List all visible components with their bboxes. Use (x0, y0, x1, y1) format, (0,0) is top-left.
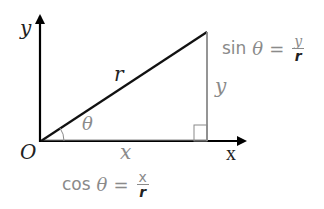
vertical-leg-label: y (215, 74, 226, 98)
angle-arc-icon (60, 128, 64, 141)
origin-label: O (20, 140, 36, 164)
cos-formula: cos θ = x r (62, 166, 149, 202)
horizontal-leg-label: x (120, 140, 131, 164)
sin-formula: sin θ = y r (222, 30, 304, 66)
angle-label: θ (82, 113, 93, 134)
sin-angle: θ (252, 38, 263, 59)
x-axis-label: x (226, 142, 236, 165)
sin-func: sin (222, 38, 246, 58)
cos-angle: θ (97, 174, 108, 195)
y-axis-label: y (20, 16, 31, 40)
right-angle-marker (194, 125, 207, 141)
sin-equals: = (269, 38, 284, 59)
cos-func: cos (62, 174, 91, 194)
sin-numerator: y (292, 34, 304, 49)
cos-denominator: r (139, 185, 146, 199)
sin-fraction: y r (292, 34, 304, 63)
hypotenuse (41, 32, 207, 141)
cos-numerator: x (137, 170, 149, 185)
hypotenuse-label: r (114, 62, 124, 86)
cos-fraction: x r (137, 170, 149, 199)
cos-equals: = (113, 174, 128, 195)
sin-denominator: r (295, 49, 302, 63)
